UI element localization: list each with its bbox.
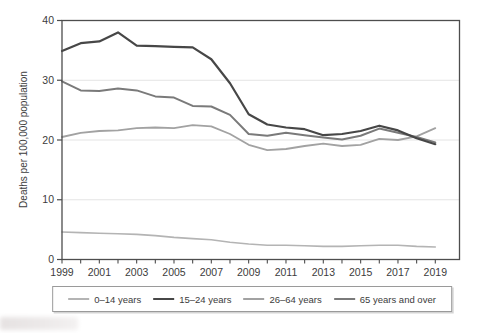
- x-tick-label-1999: 1999: [50, 266, 74, 278]
- x-tick-label-2007: 2007: [200, 266, 224, 278]
- x-tick-label-2019: 2019: [424, 266, 448, 278]
- y-tick-label-0: 0: [48, 253, 54, 265]
- legend-line-swatch: [243, 298, 264, 300]
- legend-line-swatch: [68, 298, 89, 300]
- chart-figure: Deaths per 100,000 population 0102030401…: [0, 0, 481, 333]
- line-chart: 0102030401999200120032005200720092011201…: [0, 0, 481, 333]
- legend-item-26-64-years: 26–64 years: [243, 294, 321, 305]
- x-tick-label-2001: 2001: [88, 266, 112, 278]
- x-tick-label-2015: 2015: [349, 266, 373, 278]
- series-line-65-years-and-over: [62, 81, 435, 142]
- legend-item-15-24-years: 15–24 years: [153, 294, 231, 305]
- x-tick-label-2009: 2009: [237, 266, 261, 278]
- x-tick-label-2011: 2011: [275, 266, 298, 278]
- y-tick-label-20: 20: [42, 134, 54, 146]
- legend-label: 26–64 years: [269, 294, 321, 305]
- x-tick-label-2003: 2003: [125, 266, 149, 278]
- legend-label: 15–24 years: [179, 294, 231, 305]
- watermark-artifact: [0, 317, 78, 330]
- series-line-0-14-years: [62, 232, 435, 247]
- legend-line-swatch: [153, 298, 174, 300]
- y-tick-label-40: 40: [42, 14, 54, 26]
- y-tick-label-30: 30: [42, 74, 54, 86]
- legend-item-0-14-years: 0–14 years: [68, 294, 141, 305]
- x-tick-label-2005: 2005: [162, 266, 186, 278]
- y-tick-label-10: 10: [42, 193, 54, 205]
- legend-label: 0–14 years: [94, 294, 141, 305]
- legend-line-swatch: [334, 298, 355, 300]
- x-tick-label-2013: 2013: [312, 266, 336, 278]
- x-tick-label-2017: 2017: [386, 266, 410, 278]
- chart-legend: 0–14 years15–24 years26–64 years65 years…: [52, 286, 452, 312]
- legend-item-65-years-and-over: 65 years and over: [334, 294, 436, 305]
- legend-label: 65 years and over: [360, 294, 436, 305]
